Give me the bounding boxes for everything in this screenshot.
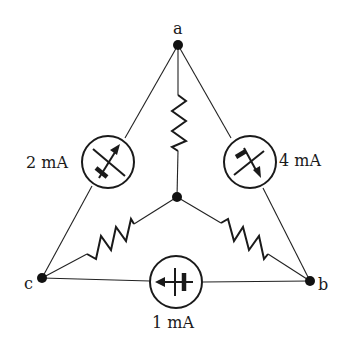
node-b [305,276,315,286]
current-source-4ma [224,136,276,188]
current-source-1ma [150,256,202,308]
node-c [37,273,47,283]
node-center [172,192,182,202]
label-node-b: b [318,275,328,294]
label-node-c: c [24,274,33,293]
label-node-a: a [173,19,183,38]
label-4ma: 4 mA [279,151,321,170]
current-source-2ma [82,136,134,188]
node-a [173,40,183,50]
circuit-diagram: a b c 2 mA 4 mA 1 mA [0,0,345,354]
label-1ma: 1 mA [152,313,194,332]
resistor-a-center [172,45,186,197]
label-2ma: 2 mA [26,153,68,172]
